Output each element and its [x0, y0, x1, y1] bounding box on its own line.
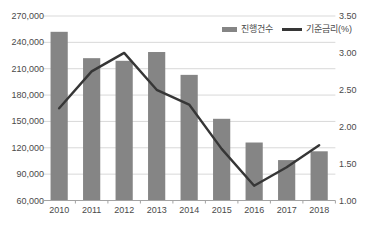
x-axis-category-label: 2013: [147, 205, 167, 215]
left-axis-tick-label: 180,000: [11, 90, 44, 100]
x-axis-category-label: 2016: [244, 205, 264, 215]
left-axis-tick-label: 210,000: [11, 64, 44, 74]
bar-2012: [116, 61, 133, 201]
bar-2014: [181, 75, 198, 201]
x-axis-category-label: 2015: [212, 205, 232, 215]
x-axis-category-label: 2011: [82, 205, 101, 215]
x-axis-category-label: 2010: [49, 205, 69, 215]
left-axis-tick-label: 270,000: [11, 11, 44, 21]
left-axis-tick-label: 120,000: [11, 143, 44, 153]
bar-2016: [246, 143, 263, 201]
bar-2018: [311, 151, 328, 200]
right-axis-tick-label: 1.00: [339, 196, 357, 206]
x-axis-category-label: 2017: [277, 205, 297, 215]
x-axis-category-label: 2014: [179, 205, 199, 215]
bar-2010: [51, 32, 68, 201]
chart-legend: 진행건수 기준금리(%): [222, 24, 352, 35]
bar-2015: [213, 119, 230, 201]
right-axis-tick-label: 2.50: [339, 85, 357, 95]
left-axis-tick-label: 240,000: [11, 37, 44, 47]
bar-series-swatch-icon: [222, 27, 237, 32]
right-axis-tick-label: 3.50: [339, 11, 357, 21]
x-axis-category-label: 2012: [114, 205, 134, 215]
line-series-swatch-icon: [282, 28, 302, 31]
left-axis-tick-label: 60,000: [16, 196, 44, 206]
left-axis-tick-label: 90,000: [16, 169, 44, 179]
left-axis-tick-label: 150,000: [11, 116, 44, 126]
combo-chart: 60,00090,000120,000150,000180,000210,000…: [0, 0, 368, 227]
line-series-label: 기준금리(%): [306, 24, 352, 35]
x-axis-category-label: 2018: [309, 205, 329, 215]
bar-series-label: 진행건수: [241, 24, 273, 35]
right-axis-tick-label: 3.00: [339, 48, 357, 58]
bar-2013: [148, 52, 165, 200]
right-axis-tick-label: 2.00: [339, 122, 357, 132]
right-axis-tick-label: 1.50: [339, 159, 357, 169]
